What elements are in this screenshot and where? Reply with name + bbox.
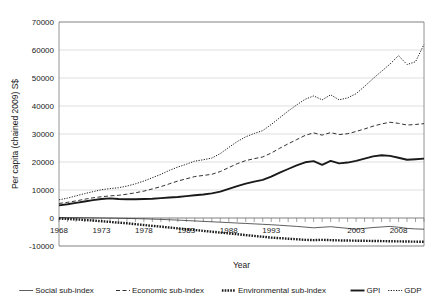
line-chart: 700006000050000400003000020000100000-100… <box>0 0 437 304</box>
y-tick-label: -10000 <box>29 242 54 251</box>
legend-label-economic-sub-index: Economic sub-index <box>132 286 204 295</box>
y-tick-label: 60000 <box>32 46 55 55</box>
x-tick-label: 1993 <box>262 226 280 235</box>
y-axis-title: Per capita (chained 2009) S$ <box>10 79 20 189</box>
series-line-gpi <box>59 155 424 205</box>
x-axis-title: Year <box>233 260 250 270</box>
y-tick-label: 40000 <box>32 102 55 111</box>
series-line-environmental-sub-index <box>59 219 424 242</box>
y-tick-label: 0 <box>50 214 55 223</box>
legend-label-social-sub-index: Social sub-index <box>35 286 94 295</box>
x-tick-label: 1968 <box>50 226 68 235</box>
legend-label-gpi: GPI <box>367 286 381 295</box>
y-tick-label: 70000 <box>32 18 55 27</box>
series-line-gdp <box>59 44 424 199</box>
y-tick-label: 50000 <box>32 74 55 83</box>
x-tick-label: 1978 <box>135 226 153 235</box>
y-tick-label: 30000 <box>32 130 55 139</box>
series-line-economic-sub-index <box>59 122 424 203</box>
y-tick-label: 20000 <box>32 158 55 167</box>
series-line-social-sub-index <box>59 217 424 229</box>
chart-container: 700006000050000400003000020000100000-100… <box>0 0 437 304</box>
legend-label-environmental-sub-index: Environmental sub-index <box>238 286 326 295</box>
y-tick-label: 10000 <box>32 186 55 195</box>
x-tick-label: 1973 <box>93 226 111 235</box>
legend-label-gdp: GDP <box>404 286 421 295</box>
x-tick-label: 2003 <box>347 226 365 235</box>
